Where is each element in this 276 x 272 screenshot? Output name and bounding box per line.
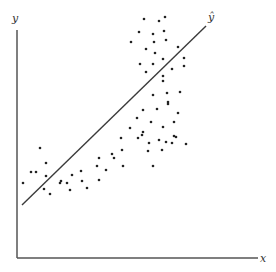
data-points [22,16,188,196]
data-point [158,139,161,142]
data-point [145,48,148,51]
data-point [141,134,144,137]
x-axis-label: x [260,252,267,265]
data-point [49,193,52,196]
data-point [43,188,46,191]
data-point [98,157,101,160]
data-point [171,68,174,71]
regression-line [22,26,206,205]
data-point [98,179,101,182]
data-point [130,41,133,44]
data-point [143,18,146,21]
data-point [162,75,165,78]
data-point [136,117,139,120]
data-point [150,121,153,124]
data-point [154,52,157,55]
data-point [166,92,169,95]
data-point [113,157,116,160]
data-point [22,182,25,185]
data-point [183,65,186,68]
data-point [156,108,159,111]
data-point [179,91,182,94]
data-point [148,142,151,145]
data-point [145,71,148,74]
data-point [45,162,48,165]
data-point [66,182,69,185]
data-point [39,147,42,150]
data-point [121,149,124,152]
data-point [185,143,188,146]
data-point [152,94,155,97]
data-point [158,20,161,23]
scatter-chart: y x ŷ [0,0,276,272]
data-point [86,187,89,190]
data-point [105,169,108,172]
data-point [152,33,155,36]
data-point [162,80,165,83]
data-point [171,142,174,145]
data-point [80,170,83,173]
y-axis-label: y [11,12,19,25]
data-point [69,189,72,192]
data-point [177,112,180,115]
data-point [173,121,176,124]
data-point [147,150,150,153]
data-point [122,165,125,168]
data-point [162,58,165,61]
data-point [111,153,114,156]
data-point [175,136,178,139]
data-point [129,127,132,130]
data-point [30,171,33,174]
data-point [138,31,141,34]
data-point [164,16,167,19]
data-point [165,39,168,42]
data-point [161,149,164,152]
data-point [35,171,38,174]
data-point [177,46,180,49]
data-point [45,175,48,178]
data-point [162,126,165,129]
data-point [81,180,84,183]
data-point [152,165,155,168]
data-point [71,174,74,177]
data-point [59,182,62,185]
data-point [137,137,140,140]
data-point [120,137,123,140]
data-point [183,57,186,60]
data-point [142,109,145,112]
data-point [165,141,168,144]
data-point [153,41,156,44]
data-point [167,103,170,106]
data-point [152,63,155,66]
data-point [139,63,142,66]
fit-line-label: ŷ [207,11,215,24]
data-point [163,30,166,33]
data-point [142,131,145,134]
data-point [96,165,99,168]
